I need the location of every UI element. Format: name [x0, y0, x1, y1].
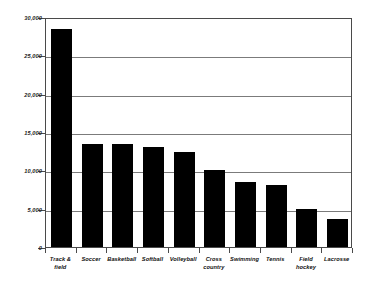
x-axis-tick	[45, 248, 46, 253]
y-axis-tick-label: 10,000	[24, 168, 42, 174]
x-axis-category-label: Tennis	[260, 256, 291, 264]
x-axis-tick	[76, 248, 77, 253]
x-axis-tick	[199, 248, 200, 253]
plot-area	[45, 18, 352, 248]
y-axis-tick-label: 0	[39, 245, 42, 251]
x-axis-category-line: Swimming	[229, 256, 260, 264]
x-axis-category-line: Track &	[45, 256, 76, 264]
bar	[112, 144, 133, 248]
x-axis-category-label: Soccer	[76, 256, 107, 264]
x-axis-tick	[321, 248, 322, 253]
bar	[51, 29, 72, 247]
x-axis-category-label: Softball	[137, 256, 168, 264]
y-axis-tick-label: 20,000	[24, 92, 42, 98]
gridline	[46, 134, 351, 135]
x-axis-category-line: Field	[291, 256, 322, 264]
bar	[204, 170, 225, 247]
gridline	[46, 96, 351, 97]
x-axis-category-label: Track &field	[45, 256, 76, 271]
x-axis-category-line: Tennis	[260, 256, 291, 264]
x-axis-category-line: Volleyball	[168, 256, 199, 264]
gridline	[46, 57, 351, 58]
x-axis-category-line: country	[199, 264, 230, 272]
y-axis-tick-label: 25,000	[24, 53, 42, 59]
x-axis-category-line: field	[45, 264, 76, 272]
x-axis-tick	[229, 248, 230, 253]
x-axis-tick	[352, 248, 353, 253]
bar	[174, 152, 195, 247]
x-axis-category-label: Swimming	[229, 256, 260, 264]
x-axis-category-label: Fieldhockey	[291, 256, 322, 271]
y-axis-tick-label: 15,000	[24, 130, 42, 136]
x-axis-category-line: Soccer	[76, 256, 107, 264]
x-axis-category-label: Lacrosse	[321, 256, 352, 264]
x-axis-tick	[291, 248, 292, 253]
bar	[296, 209, 317, 247]
x-axis-category-label: Volleyball	[168, 256, 199, 264]
x-axis-category-line: Basketball	[106, 256, 137, 264]
x-axis-category-label: Crosscountry	[199, 256, 230, 271]
x-axis-tick	[168, 248, 169, 253]
x-axis-category-line: Lacrosse	[321, 256, 352, 264]
x-axis-category-line: hockey	[291, 264, 322, 272]
bar	[82, 144, 103, 248]
x-axis-tick	[137, 248, 138, 253]
bar-chart: 05,00010,00015,00020,00025,00030,000 Tra…	[0, 0, 366, 295]
bar	[266, 185, 287, 247]
x-axis-category-label: Basketball	[106, 256, 137, 264]
x-axis-tick	[260, 248, 261, 253]
x-axis-tick	[106, 248, 107, 253]
y-axis-tick-label: 5,000	[28, 207, 43, 213]
y-axis-tick-label: 30,000	[24, 15, 42, 21]
bar	[235, 182, 256, 247]
bar	[143, 147, 164, 247]
x-axis-category-line: Softball	[137, 256, 168, 264]
x-axis-category-line: Cross	[199, 256, 230, 264]
bar	[327, 219, 348, 247]
